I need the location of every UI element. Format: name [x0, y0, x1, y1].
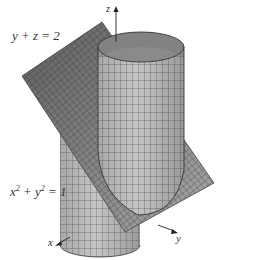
y-axis — [158, 225, 174, 231]
z-arrow-icon — [114, 6, 119, 12]
x-axis-label: x — [48, 236, 53, 248]
diagram: y + z = 2 x2 + y2 = 1 z x y — [0, 0, 259, 260]
cylinder-upper — [98, 32, 184, 215]
y-axis-label: y — [176, 232, 181, 244]
plane-equation-label: y + z = 2 — [12, 28, 60, 44]
z-axis-label: z — [106, 3, 110, 14]
cylinder-equation-label: x2 + y2 = 1 — [10, 184, 67, 200]
